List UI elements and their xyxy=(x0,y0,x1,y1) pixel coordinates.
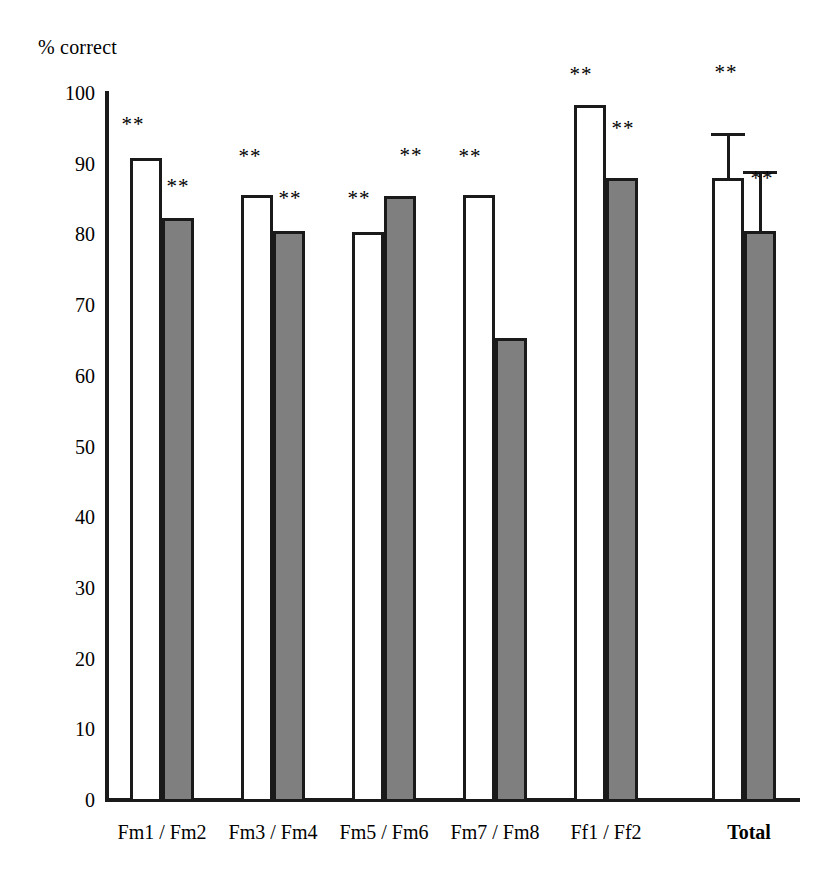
bar-fm3-fm4-gray xyxy=(273,231,305,802)
error-bar-total-white xyxy=(712,133,744,179)
bar-fm7-fm8-gray xyxy=(495,338,527,802)
y-tick-label-0: 0 xyxy=(33,790,95,810)
significance-fm5-fm6-gray: ** xyxy=(400,145,423,166)
significance-fm7-fm8-white: ** xyxy=(459,146,482,167)
y-tick-label-30: 30 xyxy=(33,578,95,598)
significance-fm3-fm4-gray: ** xyxy=(279,188,302,209)
bar-fm1-fm2-white xyxy=(130,158,162,802)
significance-fm3-fm4-white: ** xyxy=(239,146,262,167)
bar-fm5-fm6-gray xyxy=(384,196,416,802)
significance-total-gray: ** xyxy=(751,168,774,189)
y-tick-label-50: 50 xyxy=(33,437,95,457)
y-tick-label-20: 20 xyxy=(33,649,95,669)
y-tick-label-40: 40 xyxy=(33,507,95,527)
y-tick-label-90: 90 xyxy=(33,154,95,174)
bar-ff1-ff2-gray xyxy=(606,178,638,802)
y-tick-label-10: 10 xyxy=(33,719,95,739)
significance-fm5-fm6-white: ** xyxy=(348,188,371,209)
y-tick-label-60: 60 xyxy=(33,366,95,386)
y-tick-label-100: 100 xyxy=(33,83,95,103)
significance-fm1-fm2-gray: ** xyxy=(167,176,190,197)
y-tick-label-80: 80 xyxy=(33,224,95,244)
x-category-label-ff1-ff2: Ff1 / Ff2 xyxy=(570,822,641,842)
significance-fm1-fm2-white: ** xyxy=(122,114,145,135)
bar-total-white xyxy=(712,178,744,802)
bar-ff1-ff2-white xyxy=(574,105,606,802)
plot-area: 0 10 20 30 40 50 60 70 80 90 100 ** ** *… xyxy=(0,0,837,881)
bar-total-gray xyxy=(744,231,776,802)
x-category-label-fm5-fm6: Fm5 / Fm6 xyxy=(340,822,429,842)
significance-ff1-ff2-white: ** xyxy=(570,64,593,85)
significance-total-white: ** xyxy=(715,62,738,83)
y-axis-line xyxy=(105,91,109,802)
bar-chart: % correct 0 10 20 30 40 50 60 70 80 90 1… xyxy=(0,0,837,881)
bar-fm1-fm2-gray xyxy=(162,218,194,802)
error-bar-cap xyxy=(711,133,745,136)
x-category-label-fm7-fm8: Fm7 / Fm8 xyxy=(451,822,540,842)
x-axis-line xyxy=(105,798,800,802)
bar-fm5-fm6-white xyxy=(352,232,384,802)
x-category-label-total: Total xyxy=(727,822,771,842)
significance-ff1-ff2-gray: ** xyxy=(612,118,635,139)
error-bar-stem xyxy=(727,133,730,179)
x-category-label-fm1-fm2: Fm1 / Fm2 xyxy=(118,822,207,842)
x-category-label-fm3-fm4: Fm3 / Fm4 xyxy=(229,822,318,842)
bar-fm7-fm8-white xyxy=(463,195,495,802)
bar-fm3-fm4-white xyxy=(241,195,273,802)
y-tick-label-70: 70 xyxy=(33,295,95,315)
